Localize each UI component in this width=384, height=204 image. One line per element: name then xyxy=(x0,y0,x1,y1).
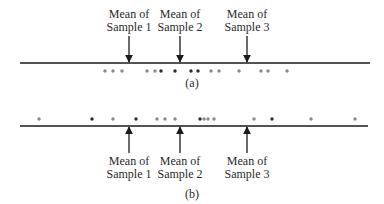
panel-a xyxy=(20,36,370,73)
sample-dot xyxy=(353,117,356,120)
sample-dot xyxy=(37,117,40,120)
sample-dot xyxy=(309,117,312,120)
sample-dot xyxy=(173,69,176,72)
sample-dot xyxy=(206,117,209,120)
sample-dot xyxy=(111,69,114,72)
sample-dot xyxy=(202,117,205,120)
sample-dot xyxy=(285,69,288,72)
sample-dot xyxy=(217,69,220,72)
sample-dot xyxy=(159,69,162,72)
sample-dot xyxy=(196,69,199,72)
sample-dot xyxy=(120,69,123,72)
caption-b: (b) xyxy=(177,188,207,201)
mean-label-line2: Sample 2 xyxy=(145,168,215,181)
sample-dot xyxy=(134,117,137,120)
sample-dot xyxy=(90,117,93,120)
caption-a: (a) xyxy=(177,77,207,90)
panel-b xyxy=(20,117,368,153)
sample-dot xyxy=(163,117,166,120)
sample-dot xyxy=(145,69,148,72)
sample-dot xyxy=(237,69,240,72)
mean-label-a-3: Mean of Sample 3 xyxy=(212,8,282,34)
sample-dot xyxy=(252,117,255,120)
sample-dot xyxy=(111,117,114,120)
mean-label-line2: Sample 3 xyxy=(212,21,282,34)
sample-dot xyxy=(212,117,215,120)
mean-label-line2: Sample 2 xyxy=(145,21,215,34)
sample-dot xyxy=(259,69,262,72)
sample-dot xyxy=(198,117,201,120)
sample-dot xyxy=(103,69,106,72)
sample-dot xyxy=(270,117,273,120)
sample-dot xyxy=(266,69,269,72)
sample-dot xyxy=(173,117,176,120)
sample-dot xyxy=(153,69,156,72)
mean-label-a-2: Mean of Sample 2 xyxy=(145,8,215,34)
mean-label-b-3: Mean of Sample 3 xyxy=(212,155,282,181)
sample-dot xyxy=(209,69,212,72)
sample-dot xyxy=(155,117,158,120)
sample-dot xyxy=(189,69,192,72)
mean-label-b-2: Mean of Sample 2 xyxy=(145,155,215,181)
mean-label-line2: Sample 3 xyxy=(212,168,282,181)
